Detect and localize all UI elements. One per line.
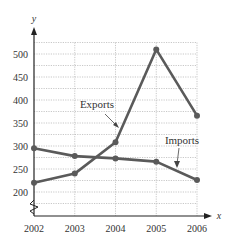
y-tick-label: 300 [13, 141, 28, 152]
y-tick-label: 450 [13, 72, 28, 83]
y-tick-labels: 200250300350400450500 [13, 49, 28, 198]
grid-lines [34, 43, 197, 217]
x-tick-label: 2002 [24, 223, 44, 234]
line-chart: y x 200250300350400450500 20022003200420… [0, 0, 228, 241]
x-axis-arrow-icon [204, 213, 212, 219]
x-tick-label: 2004 [106, 223, 126, 234]
y-tick-label: 200 [13, 187, 28, 198]
imports-data-point [153, 159, 159, 165]
y-tick-label: 250 [13, 164, 28, 175]
y-axis-arrow-icon [31, 27, 37, 35]
imports-data-point [72, 153, 78, 159]
exports-data-point [194, 113, 200, 119]
x-tick-label: 2005 [146, 223, 166, 234]
imports-data-point [194, 177, 200, 183]
exports-data-point [72, 171, 78, 177]
exports-data-point [31, 180, 37, 186]
y-tick-label: 350 [13, 118, 28, 129]
imports-data-point [113, 155, 119, 161]
imports-arrow-head-icon [174, 161, 180, 168]
exports-annotation: Exports [80, 98, 114, 110]
y-tick-label: 400 [13, 95, 28, 106]
y-axis-label: y [31, 13, 37, 24]
y-tick-label: 500 [13, 49, 28, 60]
x-tick-label: 2003 [65, 223, 85, 234]
x-tick-label: 2006 [187, 223, 207, 234]
x-tick-labels: 20022003200420052006 [24, 223, 207, 234]
imports-annotation: Imports [165, 134, 199, 146]
exports-data-point [153, 46, 159, 52]
imports-data-point [31, 145, 37, 151]
exports-data-point [113, 139, 119, 145]
x-axis-label: x [216, 210, 222, 221]
